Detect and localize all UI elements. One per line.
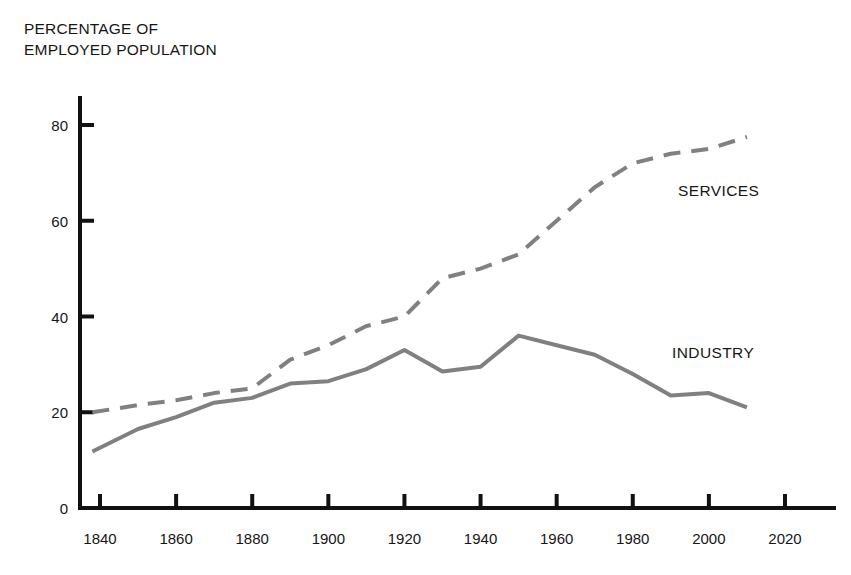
y-tick-label: 80: [18, 117, 68, 134]
y-tick-label: 20: [18, 404, 68, 421]
x-tick-label: 1840: [83, 530, 116, 547]
x-tick-label: 2020: [768, 530, 801, 547]
x-tick-label: 1980: [616, 530, 649, 547]
x-tick-label: 1960: [540, 530, 573, 547]
series-label-industry: INDUSTRY: [672, 344, 754, 362]
x-tick-label: 1900: [312, 530, 345, 547]
y-tick-label: 40: [18, 308, 68, 325]
chart-plot-area: [0, 0, 851, 575]
chart-series: [92, 137, 747, 452]
x-tick-label: 1880: [236, 530, 269, 547]
series-line-services: [92, 137, 747, 412]
x-tick-label: 1940: [464, 530, 497, 547]
y-tick-label: 60: [18, 212, 68, 229]
chart-figure: PERCENTAGE OFEMPLOYED POPULATION 0204060…: [0, 0, 851, 575]
x-tick-label: 1860: [159, 530, 192, 547]
y-tick-label: 0: [18, 500, 68, 517]
x-tick-label: 2000: [692, 530, 725, 547]
chart-axes: [78, 96, 836, 508]
series-line-industry: [92, 336, 747, 452]
x-tick-label: 1920: [388, 530, 421, 547]
series-label-services: SERVICES: [678, 182, 759, 200]
